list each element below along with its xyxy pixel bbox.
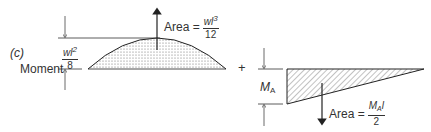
panel-label: (c): [10, 46, 24, 60]
triangle-area-numerator: M: [369, 100, 377, 111]
area-denominator: 12: [205, 29, 216, 40]
triangle-area-denominator: 2: [374, 116, 380, 127]
height-denominator: 8: [67, 60, 73, 71]
parabola-height-label: wl2 8: [62, 45, 78, 71]
triangle-area: [287, 69, 424, 104]
moment-axis-label: Moment: [20, 62, 63, 76]
area-numerator: wl: [204, 16, 213, 27]
triangle-height-label: MA: [260, 80, 275, 95]
triangle-area-prefix: Area =: [329, 107, 365, 121]
triangle-area-label: Area = MAl 2: [329, 101, 385, 127]
triangle-area-numerator-tail: l: [382, 100, 384, 111]
area-prefix: Area =: [164, 20, 200, 34]
height-exponent: 2: [72, 45, 76, 54]
area-exponent: 3: [213, 14, 217, 23]
ma-main: M: [260, 80, 270, 94]
plus-operator: +: [238, 60, 246, 75]
ma-subscript: A: [270, 86, 275, 95]
parabola-area-label: Area = wl3 12: [164, 14, 219, 40]
